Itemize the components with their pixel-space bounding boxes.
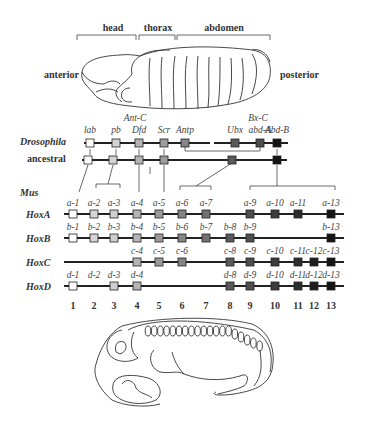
hoxc-gene-box-c-10	[271, 258, 279, 266]
drosophila-gene-label-pb: pb	[110, 125, 121, 135]
hoxc-gene-label-c-9: c-9	[244, 246, 256, 256]
hoxb-gene-label-b-1: b-1	[67, 222, 80, 232]
hoxd-gene-box-d-11	[294, 282, 302, 290]
hoxd-gene-label-d-11: d-11	[290, 270, 307, 280]
ancestral-gene-box-2	[109, 156, 117, 164]
drosophila-gene-box-Abd-B	[273, 139, 281, 147]
hoxa-gene-box-a-9	[246, 210, 254, 218]
hoxa-gene-box-a-13	[327, 210, 335, 218]
somite	[213, 326, 219, 336]
hoxa-gene-label-a-6: a-6	[176, 198, 189, 208]
hoxb-gene-label-b-8: b-8	[224, 222, 237, 232]
paralog-number-3: 3	[112, 300, 117, 311]
hoxd-gene-box-d-10	[271, 282, 279, 290]
hoxa-gene-label-a-4: a-4	[131, 198, 144, 208]
drosophila-gene-label-Scr: Scr	[158, 125, 171, 135]
hoxb-gene-box-b-7	[202, 234, 210, 242]
hoxb-gene-label-b-5: b-5	[153, 222, 166, 232]
hoxc-gene-box-c-8	[226, 258, 234, 266]
somite	[158, 326, 164, 336]
hoxd-gene-label-d-12: d-12	[305, 270, 323, 280]
hoxa-gene-box-a-7	[202, 210, 210, 218]
hoxb-gene-box-b-8	[226, 234, 234, 242]
somite	[244, 335, 250, 345]
hoxd-gene-box-d-1	[69, 282, 77, 290]
hoxa-gene-label-a-11: a-11	[290, 198, 307, 208]
drosophila-gene-box-Dfd	[135, 139, 143, 147]
hoxb-gene-label-b-4: b-4	[131, 222, 144, 232]
hoxb-gene-box-b-5	[155, 234, 163, 242]
hoxd-gene-label-d-3: d-3	[108, 270, 121, 280]
somite	[170, 326, 176, 336]
hoxd-gene-label-d-2: d-2	[88, 270, 101, 280]
hoxd-gene-label-d-13: d-13	[322, 270, 340, 280]
mus-label: Mus	[19, 187, 38, 198]
posterior-label: posterior	[280, 69, 319, 80]
paralog-number-2: 2	[92, 300, 97, 311]
somite	[251, 338, 257, 348]
somite	[232, 329, 238, 339]
hoxa-gene-box-a-10	[271, 210, 279, 218]
paralog-number-4: 4	[135, 300, 140, 311]
gene-labels: labpbDfdScrAntpUbxabd-AAbd-Ba-1a-2a-3a-4…	[67, 125, 340, 280]
hoxb-gene-box-b-13	[327, 234, 335, 242]
ancestral-gene-box-13	[273, 156, 281, 164]
hoxc-gene-box-c-11	[294, 258, 302, 266]
bx-c-label: Bx-C	[248, 113, 268, 123]
somite	[220, 326, 226, 336]
hoxb-gene-label-b-2: b-2	[88, 222, 101, 232]
hoxc-gene-label-c-13: c-13	[323, 246, 340, 256]
hoxa-gene-box-a-5	[155, 210, 163, 218]
somite	[201, 326, 207, 336]
hoxb-gene-box-b-2	[90, 234, 98, 242]
hoxd-gene-box-d-3	[110, 282, 118, 290]
hoxc-gene-box-c-5	[155, 258, 163, 266]
region-thorax-label: thorax	[144, 22, 172, 33]
hoxd-gene-box-d-13	[327, 282, 335, 290]
hoxa-gene-box-a-6	[178, 210, 186, 218]
hoxb-gene-box-b-9	[246, 234, 254, 242]
drosophila-gene-label-Abd-B: Abd-B	[264, 125, 289, 135]
paralog-number-6: 6	[180, 300, 185, 311]
drosophila-embryo-illustration	[82, 47, 271, 109]
ancestral-gene-box-5	[160, 156, 168, 164]
ancestral-gene-box-1	[84, 156, 92, 164]
anterior-label: anterior	[44, 69, 80, 80]
ant-c-label: Ant-C	[123, 113, 147, 123]
drosophila-gene-box-Antp	[181, 139, 189, 147]
hoxb-gene-box-b-6	[178, 234, 186, 242]
somite	[164, 326, 170, 336]
paralog-number-1: 1	[71, 300, 76, 311]
somite	[176, 326, 182, 336]
paralog-number-11: 11	[293, 300, 302, 311]
hoxa-gene-label-a-13: a-13	[322, 198, 340, 208]
fly-ancestral-arrows	[90, 149, 277, 174]
hoxd-gene-label-d-10: d-10	[266, 270, 284, 280]
drosophila-gene-label-lab: lab	[84, 125, 96, 135]
drosophila-gene-label-Ubx: Ubx	[227, 125, 244, 135]
paralog-number-5: 5	[157, 300, 162, 311]
drosophila-gene-box-abd-A	[256, 139, 264, 147]
hoxb-gene-label-b-9: b-9	[244, 222, 257, 232]
hoxb-gene-label-b-7: b-7	[200, 222, 214, 232]
drosophila-gene-box-Scr	[160, 139, 168, 147]
hoxd-gene-box-d-12	[310, 282, 318, 290]
mouse-embryo-illustration	[95, 318, 273, 406]
somite	[238, 332, 244, 342]
somite	[182, 326, 188, 336]
drosophila-gene-box-Ubx	[231, 139, 239, 147]
somite	[195, 326, 201, 336]
somite	[257, 341, 263, 351]
hoxa-gene-label-a-10: a-10	[266, 198, 284, 208]
hoxa-gene-label-a-5: a-5	[153, 198, 166, 208]
region-abdomen-label: abdomen	[204, 22, 244, 33]
hoxd-label: HoxD	[25, 281, 51, 292]
hoxa-gene-label-a-1: a-1	[67, 198, 80, 208]
hoxa-gene-box-a-1	[69, 210, 77, 218]
paralog-number-7: 7	[204, 300, 209, 311]
somite	[151, 326, 157, 336]
abdomen-bracket	[177, 35, 270, 40]
hoxc-label: HoxC	[25, 257, 51, 268]
hoxc-gene-box-c-12	[310, 258, 318, 266]
hoxd-gene-box-d-9	[246, 282, 254, 290]
